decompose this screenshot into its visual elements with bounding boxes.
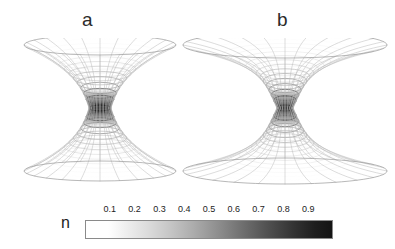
- colorbar: n 0.10.20.30.40.50.60.70.80.9: [0, 0, 395, 249]
- colorbar-tick-labels: 0.10.20.30.40.50.60.70.80.9: [85, 205, 333, 219]
- colorbar-gradient: [85, 220, 333, 239]
- colorbar-tick-0.6: 0.6: [228, 205, 241, 214]
- colorbar-tick-0.1: 0.1: [104, 205, 117, 214]
- colorbar-tick-0.9: 0.9: [302, 205, 315, 214]
- colorbar-tick-0.3: 0.3: [153, 205, 166, 214]
- colorbar-tick-0.2: 0.2: [128, 205, 141, 214]
- figure-canvas: a b n 0.10.20.30.40.50.60.70.80.9: [0, 0, 395, 249]
- colorbar-tick-0.5: 0.5: [203, 205, 216, 214]
- colorbar-tick-0.4: 0.4: [178, 205, 191, 214]
- colorbar-title: n: [61, 215, 70, 231]
- colorbar-tick-0.7: 0.7: [252, 205, 265, 214]
- colorbar-tick-0.8: 0.8: [277, 205, 290, 214]
